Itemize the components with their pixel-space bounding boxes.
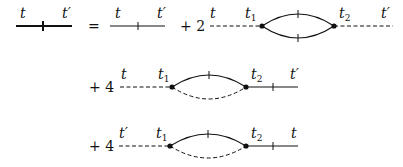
term-bubble-3: + 4 t′ t1 t2 t: [89, 125, 298, 158]
lhs-left-label: t: [20, 5, 26, 21]
term1-coefficient: + 2: [180, 18, 205, 34]
term1-vertex1-label: t1: [245, 5, 256, 23]
term1-vertex2-label: t2: [339, 5, 350, 23]
term0-left-label: t: [115, 5, 121, 21]
term2-coefficient: + 4: [89, 79, 114, 95]
vertex-dot: [259, 23, 264, 28]
term3-right-label: t: [291, 125, 297, 141]
term3-coefficient: + 4: [89, 138, 114, 154]
vertex-dot: [169, 84, 174, 89]
term2-vertex1-label: t1: [158, 66, 169, 84]
equals-sign: =: [88, 18, 100, 34]
term1-right-label: t′: [381, 5, 391, 21]
term2-left-label: t: [121, 66, 127, 82]
vertex-dot: [167, 143, 172, 148]
term2-vertex2-label: t2: [251, 66, 262, 84]
lhs-propagator: t t′: [16, 5, 72, 31]
term3-left-label: t′: [119, 125, 129, 141]
term-bubble-1: + 2 t t1 t2 t′: [180, 5, 393, 42]
term1-left-label: t: [210, 5, 216, 21]
lhs-right-label: t′: [62, 5, 72, 21]
term0-right-label: t′: [157, 5, 167, 21]
term3-vertex2-label: t2: [251, 125, 262, 143]
term-bubble-2: + 4 t t1 t2 t′: [89, 66, 300, 99]
dashed-bottom-arc: [172, 87, 246, 99]
vertex-dot: [243, 84, 248, 89]
term-free-propagator: t t′: [110, 5, 167, 30]
vertex-dot: [331, 23, 336, 28]
term3-vertex1-label: t1: [156, 125, 167, 143]
term2-right-label: t′: [290, 66, 300, 82]
vertex-dot: [243, 143, 248, 148]
dashed-bottom-arc: [170, 146, 246, 158]
diagram-canvas: t t′ = t t′ + 2 t t1 t2 t′ + 4 t: [0, 0, 403, 167]
